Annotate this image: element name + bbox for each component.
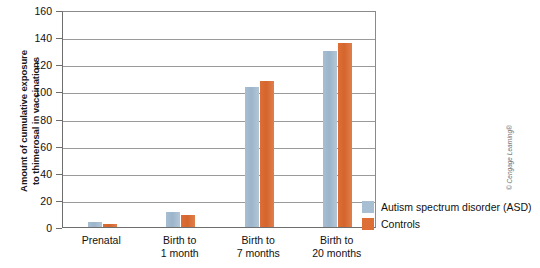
bar-controls: [181, 215, 195, 227]
y-axis-tick-label: 120: [18, 60, 52, 71]
gridline: [63, 39, 375, 40]
bar-asd: [245, 87, 259, 227]
y-axis-tick-label: 60: [18, 142, 52, 153]
legend-item-asd[interactable]: Autism spectrum disorder (ASD): [362, 198, 532, 215]
y-axis-tick-label: 100: [18, 87, 52, 98]
legend-label: Autism spectrum disorder (ASD): [381, 201, 532, 213]
x-axis-category-label-line: 20 months: [298, 247, 377, 260]
y-axis-tick-label: 20: [18, 196, 52, 207]
x-axis-category-label-line: Birth to: [141, 234, 220, 247]
x-axis-category-label-line: 7 months: [219, 247, 298, 260]
legend-swatch-icon: [362, 218, 374, 230]
plot-area: [62, 11, 376, 228]
bar-asd: [323, 51, 337, 227]
bar-controls: [338, 43, 352, 227]
x-axis-category-label: Birth to20 months: [298, 234, 377, 260]
y-axis-tick-label: 0: [18, 223, 52, 234]
x-axis-category-label: Birth to7 months: [219, 234, 298, 260]
x-axis-category-label: Birth to1 month: [141, 234, 220, 260]
y-axis-tick-label: 80: [18, 115, 52, 126]
x-axis-category-label: Prenatal: [62, 234, 141, 247]
chart-legend: Autism spectrum disorder (ASD)Controls: [362, 198, 532, 232]
bar-controls: [260, 81, 274, 227]
legend-label: Controls: [381, 218, 420, 230]
y-axis-tick: [56, 228, 62, 229]
x-axis-category-label-line: Birth to: [219, 234, 298, 247]
legend-item-controls[interactable]: Controls: [362, 215, 532, 232]
x-axis-category-label-line: 1 month: [141, 247, 220, 260]
copyright-credit: © Cengage Learning®: [506, 110, 513, 190]
chart-figure: Amount of cumulative exposure to thimero…: [0, 0, 540, 268]
bar-asd: [88, 222, 102, 227]
y-axis-tick-label: 40: [18, 169, 52, 180]
bar-asd: [166, 212, 180, 227]
y-axis-tick-label: 160: [18, 6, 52, 17]
x-axis-category-label-line: Prenatal: [62, 234, 141, 247]
legend-swatch-icon: [362, 201, 374, 213]
y-axis-tick-label: 140: [18, 33, 52, 44]
x-axis-category-label-line: Birth to: [298, 234, 377, 247]
bar-controls: [103, 224, 117, 227]
